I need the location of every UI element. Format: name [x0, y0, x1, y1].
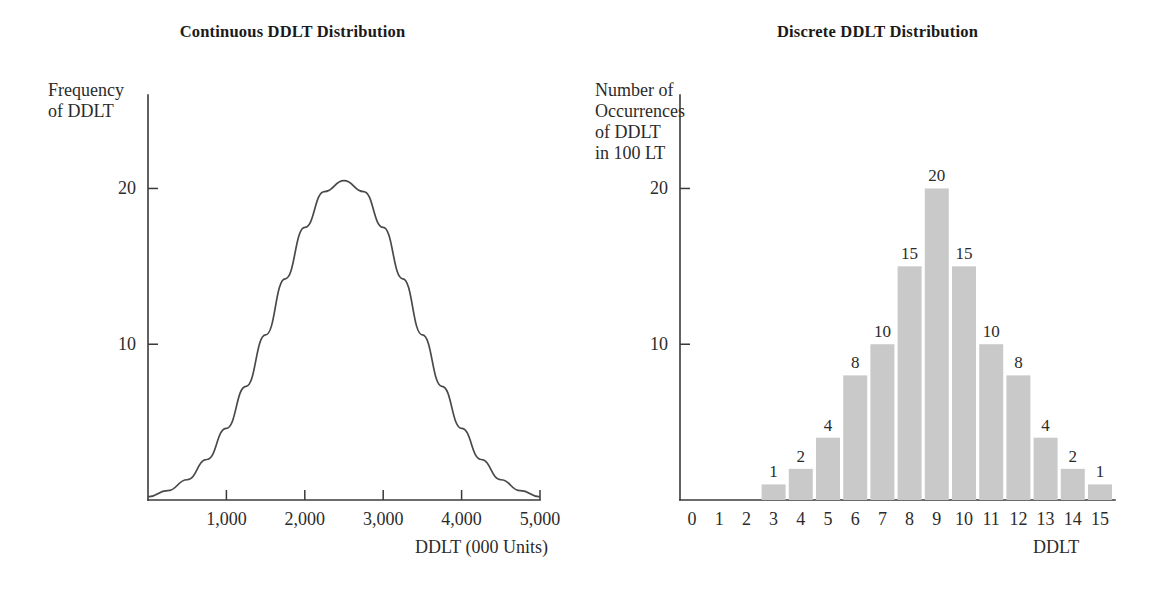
discrete-x-tick-label: 4 [796, 509, 805, 529]
continuous-chart-svg: 1020 1,0002,0003,0004,0005,000 [0, 0, 585, 604]
discrete-bars-group [762, 188, 1112, 500]
discrete-bar-value-label: 8 [1014, 353, 1023, 372]
discrete-x-tick-label: 3 [769, 509, 778, 529]
discrete-x-tick-label: 11 [983, 509, 1000, 529]
discrete-distribution-panel: Discrete DDLT Distribution Number of Occ… [585, 0, 1170, 604]
discrete-x-tick-label: 10 [955, 509, 973, 529]
discrete-bar-value-label: 2 [797, 447, 806, 466]
discrete-bar-value-label: 10 [983, 322, 1000, 341]
continuous-x-tick-label: 1,000 [206, 509, 247, 529]
discrete-bar [762, 484, 786, 500]
continuous-x-tick-label: 5,000 [520, 509, 561, 529]
discrete-bar [870, 344, 894, 500]
discrete-bar [898, 266, 922, 500]
discrete-x-tick-label: 7 [878, 509, 887, 529]
discrete-y-tick-label: 20 [650, 178, 668, 198]
continuous-distribution-panel: Continuous DDLT Distribution Frequency o… [0, 0, 585, 604]
discrete-chart-svg: 1020 124810152015108421 0123456789101112… [585, 0, 1170, 604]
continuous-x-ticks: 1,0002,0003,0004,0005,000 [206, 490, 560, 529]
discrete-bar-value-label: 20 [928, 166, 945, 185]
discrete-bar-value-label: 2 [1069, 447, 1078, 466]
discrete-bar [789, 469, 813, 500]
discrete-x-tick-label: 1 [715, 509, 724, 529]
discrete-y-tick-label: 10 [650, 334, 668, 354]
discrete-bar [979, 344, 1003, 500]
discrete-bar-value-label: 15 [901, 244, 918, 263]
discrete-bar [1088, 484, 1112, 500]
discrete-x-tick-labels: 0123456789101112131415 [688, 509, 1110, 529]
discrete-x-tick-label: 2 [742, 509, 751, 529]
continuous-x-tick-label: 4,000 [441, 509, 482, 529]
discrete-bar-value-label: 4 [824, 416, 833, 435]
discrete-bar [925, 188, 949, 500]
discrete-x-tick-label: 5 [824, 509, 833, 529]
discrete-x-tick-label: 0 [688, 509, 697, 529]
continuous-distribution-curve [148, 181, 540, 497]
discrete-bar [1006, 375, 1030, 500]
discrete-bar-value-label: 4 [1041, 416, 1050, 435]
discrete-y-ticks: 1020 [650, 178, 690, 354]
discrete-x-tick-label: 13 [1037, 509, 1055, 529]
discrete-bar [843, 375, 867, 500]
continuous-x-axis-label: DDLT (000 Units) [415, 537, 548, 558]
continuous-y-tick-label: 20 [118, 178, 136, 198]
discrete-x-tick-label: 15 [1091, 509, 1109, 529]
continuous-x-tick-label: 2,000 [285, 509, 326, 529]
discrete-bar-value-label: 1 [1096, 462, 1105, 481]
discrete-x-tick-label: 6 [851, 509, 860, 529]
discrete-bar-value-label: 15 [956, 244, 973, 263]
continuous-y-ticks: 1020 [118, 178, 158, 354]
discrete-bar-value-label: 1 [769, 462, 778, 481]
continuous-x-tick-label: 3,000 [363, 509, 404, 529]
discrete-bar-value-label: 10 [874, 322, 891, 341]
discrete-bar-value-label: 8 [851, 353, 860, 372]
discrete-x-tick-label: 14 [1064, 509, 1082, 529]
discrete-x-tick-label: 8 [905, 509, 914, 529]
discrete-x-tick-label: 12 [1009, 509, 1027, 529]
discrete-bar [1034, 438, 1058, 500]
discrete-bar [952, 266, 976, 500]
discrete-bar [1061, 469, 1085, 500]
discrete-x-tick-label: 9 [932, 509, 941, 529]
discrete-x-axis-label: DDLT [1033, 537, 1079, 558]
discrete-bar [816, 438, 840, 500]
continuous-y-tick-label: 10 [118, 334, 136, 354]
